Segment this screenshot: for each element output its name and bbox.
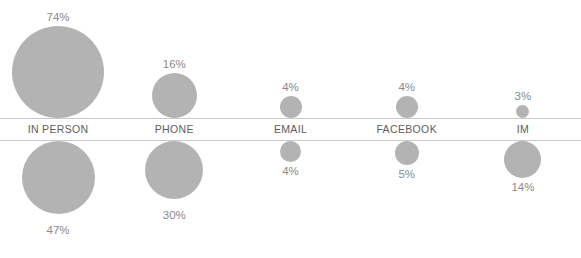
bottom-value-label: 30% bbox=[163, 210, 186, 222]
top-value-label: 74% bbox=[47, 12, 70, 24]
category-label: IM bbox=[517, 124, 529, 135]
top-bubble bbox=[12, 26, 104, 118]
category-label: PHONE bbox=[155, 124, 194, 135]
top-bubble bbox=[280, 96, 302, 118]
top-column-in-person: 74% bbox=[0, 0, 116, 118]
category-label: IN PERSON bbox=[28, 124, 89, 135]
top-value-label: 16% bbox=[163, 59, 186, 71]
bottom-series-row: 47% 30% 4% 5% 14% bbox=[0, 141, 581, 257]
category-cell-in-person: IN PERSON bbox=[0, 124, 116, 135]
bottom-bubble bbox=[145, 141, 203, 199]
category-cell-facebook: FACEBOOK bbox=[349, 124, 465, 135]
bottom-value-label: 4% bbox=[282, 166, 299, 178]
top-bubble bbox=[152, 73, 197, 118]
bottom-bubble bbox=[504, 141, 541, 178]
bottom-value-label: 5% bbox=[398, 169, 415, 181]
bottom-column-email: 4% bbox=[232, 141, 348, 257]
top-column-facebook: 4% bbox=[349, 0, 465, 118]
top-bubble bbox=[516, 105, 529, 118]
top-value-label: 4% bbox=[282, 82, 299, 94]
category-cell-im: IM bbox=[465, 124, 581, 135]
bottom-bubble bbox=[22, 141, 95, 214]
top-column-im: 3% bbox=[465, 0, 581, 118]
bottom-column-phone: 30% bbox=[116, 141, 232, 257]
category-axis: IN PERSON PHONE EMAIL FACEBOOK IM bbox=[0, 118, 581, 141]
top-column-email: 4% bbox=[232, 0, 348, 118]
top-series-row: 74% 16% 4% 4% 3% bbox=[0, 0, 581, 118]
bottom-column-in-person: 47% bbox=[0, 141, 116, 257]
bottom-bubble bbox=[395, 141, 419, 165]
category-cell-email: EMAIL bbox=[232, 124, 348, 135]
category-label: FACEBOOK bbox=[376, 124, 437, 135]
bottom-value-label: 47% bbox=[47, 225, 70, 237]
category-cell-phone: PHONE bbox=[116, 124, 232, 135]
category-label: EMAIL bbox=[274, 124, 307, 135]
bottom-column-facebook: 5% bbox=[349, 141, 465, 257]
bubble-chart: 74% 16% 4% 4% 3% IN PERSON PHONE EMAIL bbox=[0, 0, 581, 258]
bottom-bubble bbox=[280, 141, 301, 162]
bottom-column-im: 14% bbox=[465, 141, 581, 257]
top-column-phone: 16% bbox=[116, 0, 232, 118]
top-value-label: 3% bbox=[515, 91, 532, 103]
top-value-label: 4% bbox=[398, 82, 415, 94]
bottom-value-label: 14% bbox=[511, 182, 534, 194]
top-bubble bbox=[396, 96, 418, 118]
